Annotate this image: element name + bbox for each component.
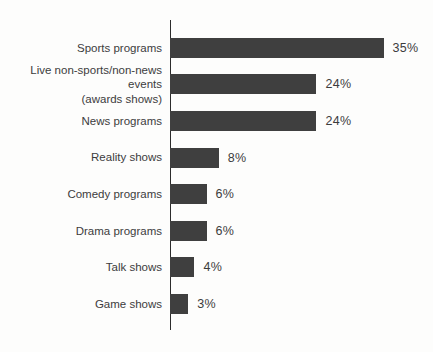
chart-row: Sports programs35% [0,30,433,67]
chart-row: Live non-sports/non-news events (awards … [0,66,433,103]
chart-rows: Sports programs35%Live non-sports/non-ne… [0,30,433,323]
bar-chart: Sports programs35%Live non-sports/non-ne… [0,0,433,352]
category-label: Sports programs [0,41,170,55]
chart-row: Reality shows8% [0,139,433,176]
bar [170,74,316,94]
category-label: Live non-sports/non-news events (awards … [0,63,170,106]
category-label: News programs [0,114,170,128]
value-label: 3% [197,297,216,311]
bar [170,38,384,58]
value-label: 6% [216,224,235,238]
category-label: Comedy programs [0,187,170,201]
category-label: Game shows [0,297,170,311]
bar [170,148,219,168]
bar [170,257,194,277]
value-label: 6% [216,187,235,201]
value-label: 8% [228,151,247,165]
bar [170,184,207,204]
chart-row: Comedy programs6% [0,176,433,213]
bar [170,111,316,131]
category-label: Reality shows [0,150,170,164]
category-label: Drama programs [0,224,170,238]
chart-row: Game shows3% [0,286,433,323]
value-label: 24% [325,77,351,91]
bar [170,221,207,241]
chart-row: Talk shows4% [0,249,433,286]
category-label: Talk shows [0,260,170,274]
chart-row: News programs24% [0,103,433,140]
bar [170,294,188,314]
value-label: 35% [393,41,419,55]
value-label: 4% [203,260,222,274]
value-label: 24% [325,114,351,128]
chart-row: Drama programs6% [0,212,433,249]
